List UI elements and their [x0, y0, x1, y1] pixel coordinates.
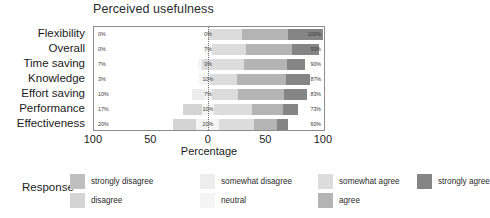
right-percent-label: 73%: [311, 102, 322, 117]
bar-segment-strongly-agree: [284, 89, 307, 100]
right-percent-label: 100%: [308, 27, 321, 42]
bar-segment-somewhat-agree: [219, 119, 254, 130]
legend-item-strongly-agree[interactable]: strongly agree: [417, 173, 490, 190]
left-percent-label: 20%: [98, 117, 109, 132]
legend-item-agree[interactable]: agree: [318, 192, 360, 209]
bar-segment-somewhat-disagree: [192, 89, 204, 100]
right-percent-label: 90%: [311, 57, 322, 72]
legend-title: Response: [22, 181, 74, 193]
x-tick-label: 50: [144, 133, 156, 145]
legend-label: disagree: [91, 196, 122, 205]
legend-item-somewhat-disagree[interactable]: somewhat disagree: [200, 173, 292, 190]
bar-segment-agree: [246, 44, 292, 55]
chart-title: Perceived usefulness: [93, 2, 214, 16]
bar-segment-somewhat-agree: [210, 74, 236, 85]
left-percent-label: 10%: [98, 87, 109, 102]
legend-label: neutral: [221, 196, 246, 205]
left-percent-label: 7%: [98, 57, 106, 72]
zero-reference-line: [208, 27, 210, 130]
y-axis-label-knowledge: Knowledge: [28, 71, 85, 86]
legend-item-strongly-disagree[interactable]: strongly disagree: [70, 173, 153, 190]
bar-segment-agree: [252, 104, 283, 115]
x-tick-label: 0: [205, 133, 211, 145]
right-percent-label: 87%: [311, 72, 322, 87]
stacked-bar: [204, 44, 319, 55]
legend-swatch-disagree: [70, 193, 85, 208]
left-percent-label: 3%: [98, 72, 106, 87]
legend-swatch-somewhat-agree: [318, 174, 333, 189]
legend-label: somewhat agree: [339, 177, 400, 186]
legend-swatch-strongly-disagree: [70, 174, 85, 189]
bar-segment-somewhat-agree: [208, 29, 243, 40]
y-axis-label-overall: Overall: [49, 41, 85, 56]
legend-item-neutral[interactable]: neutral: [200, 192, 246, 209]
right-percent-label: 83%: [311, 87, 322, 102]
stacked-bar: [183, 104, 298, 115]
bar-segment-agree: [244, 59, 287, 70]
bar-segment-disagree: [183, 104, 203, 115]
left-percent-label: 17%: [98, 102, 109, 117]
left-percent-label: 0%: [98, 42, 106, 57]
bar-segment-agree: [238, 89, 284, 100]
x-tick-label: 100: [84, 133, 102, 145]
plot-panel: 0%0%100%0%7%93%7%3%90%3%10%87%10%7%83%17…: [93, 26, 325, 131]
y-axis-label-flexibility: Flexibility: [38, 26, 85, 41]
stacked-bar: [198, 59, 305, 70]
bar-segment-somewhat-agree: [212, 44, 247, 55]
legend-label: strongly agree: [438, 177, 490, 186]
bar-segment-strongly-agree: [277, 119, 289, 130]
x-tick-label: 50: [259, 133, 271, 145]
y-axis-label-time-saving: Time saving: [23, 56, 85, 71]
x-axis-title: Percentage: [93, 145, 325, 157]
legend: Response strongly disagreedisagreesomewh…: [22, 170, 412, 212]
bar-segment-agree: [254, 119, 277, 130]
bar-segment-strongly-agree: [283, 104, 298, 115]
bar-segment-agree: [242, 29, 288, 40]
legend-label: somewhat disagree: [221, 177, 292, 186]
legend-swatch-agree: [318, 193, 333, 208]
legend-label: strongly disagree: [91, 177, 153, 186]
legend-swatch-somewhat-disagree: [200, 174, 215, 189]
legend-swatch-strongly-agree: [417, 174, 432, 189]
stacked-bar: [173, 119, 288, 130]
legend-item-disagree[interactable]: disagree: [70, 192, 122, 209]
bar-segment-strongly-agree: [286, 74, 310, 85]
bar-segment-strongly-agree: [287, 59, 305, 70]
bar-segment-somewhat-agree: [214, 104, 252, 115]
x-tick-label: 100: [314, 133, 332, 145]
left-percent-label: 0%: [98, 27, 106, 42]
bar-segment-disagree: [173, 119, 196, 130]
bar-segment-somewhat-agree: [212, 89, 238, 100]
y-axis-label-effort-saving: Effort saving: [21, 86, 85, 101]
legend-item-somewhat-agree[interactable]: somewhat agree: [318, 173, 400, 190]
right-percent-label: 60%: [311, 117, 322, 132]
stacked-bar: [199, 74, 311, 85]
legend-label: agree: [339, 196, 360, 205]
legend-swatch-neutral: [200, 193, 215, 208]
y-axis-label-performance: Performance: [19, 101, 85, 116]
y-axis-label-effectiveness: Effectiveness: [17, 116, 85, 131]
stacked-bar: [208, 29, 323, 40]
bar-segment-agree: [237, 74, 286, 85]
right-percent-label: 93%: [311, 42, 322, 57]
y-axis-category-labels: FlexibilityOverallTime savingKnowledgeEf…: [0, 26, 89, 131]
